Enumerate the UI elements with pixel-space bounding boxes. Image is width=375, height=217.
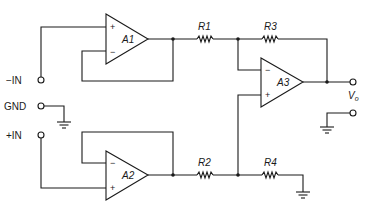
r1-label: R1 xyxy=(198,21,211,32)
ground-icon xyxy=(57,122,71,128)
wire-gnd xyxy=(44,106,64,122)
wire-inv-a3 xyxy=(238,39,261,70)
a3-plus-sign: + xyxy=(265,90,270,100)
wire-negin-a1 xyxy=(41,27,106,77)
resistor-r2: R2 xyxy=(197,157,213,178)
terminal-pos-in xyxy=(38,132,44,138)
neg-in-label: −IN xyxy=(6,75,22,86)
resistor-r4: R4 xyxy=(262,157,278,178)
circuit-schematic: + − A1 R1 R3 − + A3 Vo −IN xyxy=(0,0,375,217)
vo-label: Vo xyxy=(348,90,359,102)
op-amp-a3: − + A3 xyxy=(261,58,303,107)
a1-label: A1 xyxy=(121,34,134,45)
node-noninv xyxy=(236,173,240,177)
r3-label: R3 xyxy=(264,21,277,32)
wire-vo-return xyxy=(327,113,350,127)
ground-icon xyxy=(296,192,310,198)
resistor-r3: R3 xyxy=(262,21,278,42)
a2-minus-sign: − xyxy=(110,158,115,168)
a1-plus-sign: + xyxy=(110,22,115,32)
a2-label: A2 xyxy=(121,170,135,181)
pos-in-label: +IN xyxy=(6,130,22,141)
r2-label: R2 xyxy=(198,157,211,168)
node-a3-out xyxy=(325,80,329,84)
a3-label: A3 xyxy=(276,77,290,88)
a3-minus-sign: − xyxy=(265,65,270,75)
op-amp-a1: + − A1 xyxy=(106,14,148,64)
a2-plus-sign: + xyxy=(110,183,115,193)
op-amp-a2: − + A2 xyxy=(106,151,148,200)
terminal-vo xyxy=(350,79,356,85)
terminal-neg-in xyxy=(38,77,44,83)
ground-icon xyxy=(320,127,334,133)
wire-r4-gnd xyxy=(278,175,303,192)
r4-label: R4 xyxy=(264,157,277,168)
resistor-r1: R1 xyxy=(197,21,213,42)
wire-a3-plus xyxy=(238,95,261,175)
terminal-vo-return xyxy=(350,110,356,116)
a1-minus-sign: − xyxy=(110,47,115,57)
terminal-gnd xyxy=(38,103,44,109)
gnd-label: GND xyxy=(4,101,26,112)
